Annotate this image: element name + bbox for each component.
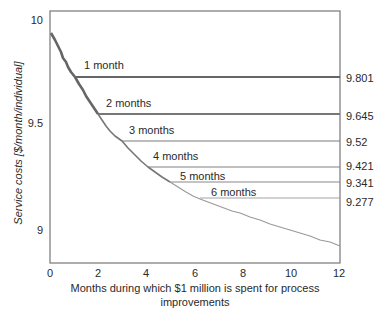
value-2-months: 9.645 [346,110,374,122]
value-3-months: 9.52 [346,136,367,148]
label-6-months: 6 months [211,186,256,198]
value-4-months: 9.421 [346,160,374,172]
x-axis-title-line-2: improvements [60,295,330,309]
value-1-month: 9.801 [346,72,374,84]
x-tick-10: 10 [281,267,301,279]
label-4-months: 4 months [153,150,198,162]
label-2-months: 2 months [106,97,151,109]
y-axis-title: Service costs [$/month/individual] [12,61,24,224]
plot-frame [50,11,340,263]
x-tick-6: 6 [185,267,205,279]
value-5-months: 9.341 [346,177,374,189]
label-1-month: 1 month [84,59,124,71]
x-tick-0: 0 [40,267,60,279]
x-axis-title: Months during which $1 million is spent … [60,281,330,309]
label-5-months: 5 months [180,170,225,182]
x-axis-title-line-1: Months during which $1 million is spent … [60,281,330,295]
y-tick-10: 10 [13,14,43,26]
x-tick-8: 8 [233,267,253,279]
x-tick-12: 12 [329,267,349,279]
value-6-months: 9.277 [346,196,374,208]
x-tick-4: 4 [136,267,156,279]
cost-curve-upper [51,33,98,114]
y-tick-9: 9 [13,224,43,236]
label-3-months: 3 months [129,124,174,136]
x-tick-2: 2 [88,267,108,279]
